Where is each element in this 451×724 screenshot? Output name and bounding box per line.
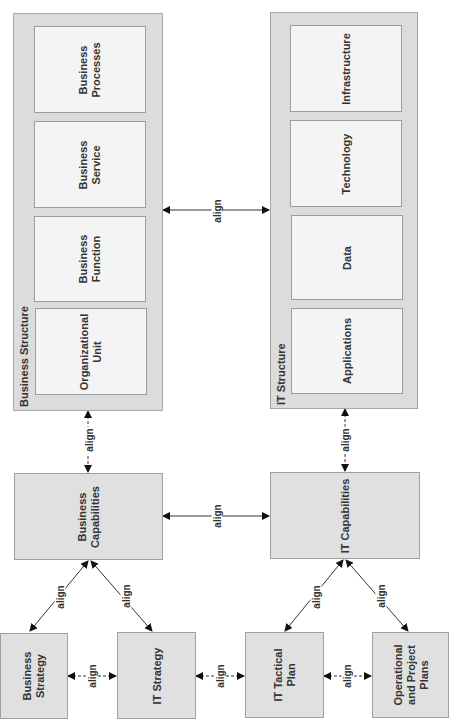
technology-label: Technology [340, 133, 353, 194]
infrastructure-box: Infrastructure [290, 25, 402, 112]
it-strategy-box: IT Strategy [117, 632, 196, 719]
align-label-bizstruct-bizcap: align [84, 426, 95, 453]
align-label-tactical-operational: align [342, 662, 353, 689]
technology-box: Technology [290, 120, 402, 207]
align-label-bizcap-itstrategy: align [121, 582, 132, 609]
business-function-box: Business Function [34, 216, 146, 302]
align-label-itcap-operational: align [376, 582, 387, 609]
data-label: Data [341, 246, 354, 270]
align-label-itcap-tactical: align [311, 583, 322, 610]
business-strategy-box: Business Strategy [0, 633, 68, 719]
it-tactical-plan-label: IT Tactical Plan [272, 649, 298, 702]
align-label-itstrategy-tactical: align [215, 662, 226, 689]
align-label-capabilities: align [212, 502, 223, 529]
business-capabilities-box: Business Capabilities [14, 473, 163, 560]
business-processes-box: Business Processes [34, 26, 146, 113]
it-strategy-label: IT Strategy [150, 647, 163, 704]
business-structure-title: Business Structure [18, 306, 30, 407]
infrastructure-label: Infrastructure [340, 33, 353, 105]
it-capabilities-label: IT Capabilities [339, 478, 352, 553]
it-structure-title: IT Structure [275, 343, 287, 405]
operational-project-plans-box: Operational and Project Plans [372, 632, 449, 718]
it-tactical-plan-box: IT Tactical Plan [245, 632, 324, 718]
business-function-label: Business Function [77, 235, 103, 284]
applications-label: Applications [341, 318, 354, 384]
align-label-bizcap-bizstrategy: align [55, 583, 66, 610]
align-label-bizstrategy-itstrategy: align [87, 662, 98, 689]
it-capabilities-box: IT Capabilities [270, 472, 420, 559]
applications-box: Applications [291, 308, 403, 394]
business-capabilities-label: Business Capabilities [76, 486, 102, 548]
align-label-itstruct-itcap: align [340, 426, 351, 453]
operational-project-plans-label: Operational and Project Plans [391, 644, 430, 705]
business-service-label: Business Service [77, 140, 103, 189]
align-label-structures: align [212, 197, 223, 224]
business-processes-label: Business Processes [77, 42, 103, 97]
business-service-box: Business Service [34, 121, 146, 208]
data-box: Data [291, 215, 403, 300]
organizational-unit-label: Organizational Unit [78, 313, 104, 389]
organizational-unit-box: Organizational Unit [35, 308, 147, 395]
business-strategy-label: Business Strategy [21, 652, 47, 701]
